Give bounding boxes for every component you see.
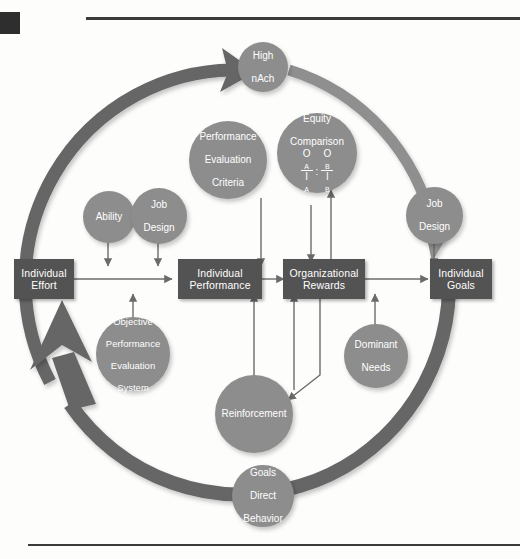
circle-ability[interactable]: Ability bbox=[83, 191, 135, 243]
circle-objective-system-line1: Objective bbox=[106, 316, 160, 327]
circle-high-nach[interactable]: High nAch bbox=[238, 42, 288, 92]
circle-goals-direct-line1: Goals bbox=[243, 467, 282, 479]
circle-job-design-left[interactable]: Job Design bbox=[131, 188, 187, 244]
circle-equity-comparison[interactable]: Equity Comparison OA IA : OB IB bbox=[277, 113, 357, 193]
circle-perf-eval-criteria-line1: Performance bbox=[199, 131, 256, 143]
box-organizational-rewards-line1: Organizational bbox=[289, 267, 358, 279]
diagram-canvas: High nAch Ability Job Design Performance… bbox=[0, 0, 520, 559]
box-individual-performance-line1: Individual bbox=[197, 267, 242, 279]
circle-job-design-left-line1: Job bbox=[143, 199, 174, 211]
circle-high-nach-line2: nAch bbox=[252, 73, 275, 85]
arrow-rewards-down-reinforcement bbox=[288, 294, 320, 400]
equity-b-outcome-sub: B bbox=[325, 163, 330, 170]
equity-a-outcome: O bbox=[303, 149, 311, 159]
circle-goals-direct-line2: Direct bbox=[243, 490, 282, 502]
box-individual-goals-line2: Goals bbox=[447, 279, 475, 291]
equity-a-input: I bbox=[303, 172, 311, 182]
box-organizational-rewards-line2: Rewards bbox=[303, 279, 345, 291]
circle-reinforcement-line1: Reinforcement bbox=[221, 408, 286, 420]
circle-objective-system-line3: Evaluation bbox=[106, 360, 160, 371]
circle-perf-eval-criteria-line3: Criteria bbox=[199, 177, 256, 189]
circle-job-design-right[interactable]: Job Design bbox=[406, 187, 463, 244]
circle-perf-eval-criteria-line2: Evaluation bbox=[199, 154, 256, 166]
box-individual-effort[interactable]: Individual Effort bbox=[14, 259, 74, 299]
equity-ratio-a: OA IA bbox=[301, 149, 313, 193]
circle-objective-system-line2: Performance bbox=[106, 338, 160, 349]
circle-goals-direct-behavior[interactable]: Goals Direct Behavior bbox=[232, 465, 294, 527]
box-individual-performance[interactable]: Individual Performance bbox=[178, 259, 262, 299]
equity-a-outcome-sub: A bbox=[304, 163, 309, 170]
circle-reinforcement[interactable]: Reinforcement bbox=[215, 375, 293, 453]
circle-job-design-right-line2: Design bbox=[419, 221, 450, 233]
equity-b-input-sub: B bbox=[325, 186, 330, 193]
circle-objective-system-line4: System bbox=[106, 382, 160, 393]
equity-ratio-b: OB IB bbox=[321, 149, 333, 193]
circle-performance-evaluation-criteria[interactable]: Performance Evaluation Criteria bbox=[189, 121, 267, 199]
equity-separator: : bbox=[313, 166, 322, 177]
circle-equity-line1: Equity bbox=[290, 113, 344, 125]
box-organizational-rewards[interactable]: Organizational Rewards bbox=[283, 259, 365, 299]
equity-b-input: I bbox=[323, 172, 331, 182]
circle-job-design-left-line2: Design bbox=[143, 222, 174, 234]
circle-job-design-right-line1: Job bbox=[419, 198, 450, 210]
box-individual-goals-line1: Individual bbox=[438, 267, 483, 279]
box-individual-performance-line2: Performance bbox=[189, 279, 250, 291]
equity-a-input-sub: A bbox=[304, 186, 309, 193]
box-individual-effort-line1: Individual bbox=[21, 267, 66, 279]
box-individual-effort-line2: Effort bbox=[31, 279, 57, 291]
equity-formula: OA IA : OB IB bbox=[301, 149, 333, 193]
equity-b-outcome: O bbox=[323, 149, 331, 159]
circle-high-nach-line1: High bbox=[252, 50, 275, 62]
circle-dominant-needs-line1: Dominant bbox=[355, 339, 398, 351]
circle-objective-performance-evaluation-system[interactable]: Objective Performance Evaluation System bbox=[96, 317, 170, 391]
circle-equity-line2: Comparison bbox=[290, 136, 344, 148]
circle-ability-line1: Ability bbox=[96, 211, 123, 223]
box-individual-goals[interactable]: Individual Goals bbox=[430, 259, 492, 299]
circle-dominant-needs[interactable]: Dominant Needs bbox=[344, 324, 408, 388]
circle-dominant-needs-line2: Needs bbox=[355, 362, 398, 374]
circle-goals-direct-line3: Behavior bbox=[243, 513, 282, 525]
